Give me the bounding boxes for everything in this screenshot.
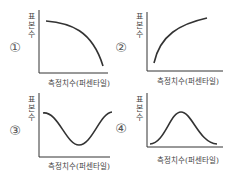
chart-panel-3: 표본수 ③ 측정치수(퍼센타일) [0, 87, 115, 174]
chart-3-marker: ③ [9, 125, 21, 137]
chart-4-xlabel: 측정치수(퍼센타일) [157, 154, 219, 165]
chart-2-xlabel: 측정치수(퍼센타일) [157, 75, 219, 86]
chart-1-marker: ① [9, 42, 21, 54]
chart-2-marker: ② [115, 42, 127, 54]
chart-panel-1: 표본수 ① 측정치수(퍼센타일) [0, 0, 115, 87]
chart-2-ylabel: 표본수 [135, 12, 144, 39]
chart-4-ylabel: 표본수 [135, 95, 144, 122]
chart-3-ylabel: 표본수 [27, 95, 36, 122]
chart-2-plot [115, 0, 230, 87]
chart-1-ylabel: 표본수 [27, 12, 36, 39]
chart-3-xlabel: 측정치수(퍼센타일) [48, 160, 110, 171]
chart-4-marker: ④ [115, 123, 127, 135]
chart-panel-4: 표본수 ④ 측정치수(퍼센타일) [115, 87, 230, 174]
chart-panel-2: 표본수 ② 측정치수(퍼센타일) [115, 0, 230, 87]
